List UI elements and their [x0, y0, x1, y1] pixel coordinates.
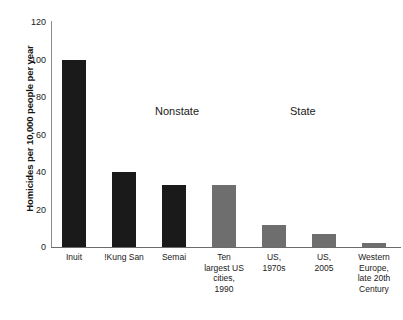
bar-2: [162, 185, 186, 247]
y-tick-label: 100: [16, 55, 46, 65]
x-axis-line: [51, 247, 401, 248]
y-tick-label: 60: [16, 130, 46, 140]
x-category-label-line: Western: [347, 252, 401, 263]
bar-chart: Homicides per 10,000 people per year 020…: [0, 0, 403, 320]
x-category-label-line: Century: [347, 284, 401, 295]
x-category-label-line: US,: [297, 252, 351, 263]
bar-4: [262, 225, 286, 248]
plot-area: [51, 22, 402, 247]
y-tick-label: 0: [16, 242, 46, 252]
x-category-label-line: !Kung San: [97, 252, 151, 263]
bar-5: [312, 234, 336, 247]
x-category-label-line: 1990: [197, 284, 251, 295]
y-tick-100: 100: [14, 55, 46, 65]
x-category-label-4: US,1970s: [247, 252, 301, 273]
x-category-label-line: 1970s: [247, 263, 301, 274]
y-tick-20: 20: [14, 205, 46, 215]
x-category-label-3: Tenlargest UScities,1990: [197, 252, 251, 294]
bar-6: [362, 243, 386, 247]
x-category-label-6: WesternEurope,late 20thCentury: [347, 252, 401, 294]
annotation-nonstate: Nonstate: [155, 105, 199, 117]
y-tick-label: 40: [16, 167, 46, 177]
x-category-label-0: Inuit: [47, 252, 101, 263]
x-category-label-line: late 20th: [347, 273, 401, 284]
x-category-label-line: Semai: [147, 252, 201, 263]
bar-3: [212, 185, 236, 247]
x-category-label-line: 2005: [297, 263, 351, 274]
x-category-label-1: !Kung San: [97, 252, 151, 263]
x-category-label-line: Ten: [197, 252, 251, 263]
x-category-label-line: largest US: [197, 263, 251, 274]
y-tick-0: 0: [14, 242, 46, 252]
x-category-label-5: US,2005: [297, 252, 351, 273]
x-category-label-line: Europe,: [347, 263, 401, 274]
x-category-label-2: Semai: [147, 252, 201, 263]
y-tick-120: 120: [14, 17, 46, 27]
annotation-state: State: [290, 105, 316, 117]
x-category-label-line: Inuit: [47, 252, 101, 263]
y-tick-80: 80: [14, 92, 46, 102]
y-tick-40: 40: [14, 167, 46, 177]
x-category-label-line: US,: [247, 252, 301, 263]
y-tick-60: 60: [14, 130, 46, 140]
bar-0: [62, 60, 86, 248]
x-category-label-line: cities,: [197, 273, 251, 284]
y-tick-label: 120: [16, 17, 46, 27]
y-tick-label: 80: [16, 92, 46, 102]
bar-1: [112, 172, 136, 247]
y-tick-label: 20: [16, 205, 46, 215]
